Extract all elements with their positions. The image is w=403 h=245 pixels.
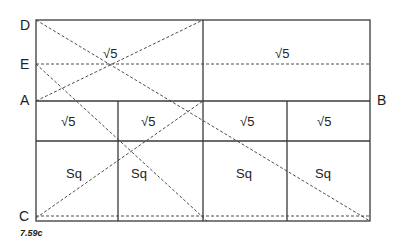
cell-label-row2-3: √5 [240,114,254,129]
cell-label-top-right: √5 [275,46,289,61]
rectangle-construction-diagram: D E A B C √5 √5 √5 √5 √5 √5 Sq Sq Sq Sq … [0,0,403,245]
cell-label-row3-3: Sq [236,166,252,181]
cell-label-row3-2: Sq [131,166,147,181]
cell-label-row2-1: √5 [61,114,75,129]
cell-label-top-left: √5 [103,46,117,61]
point-label-D: D [20,17,30,33]
cell-label-row3-1: Sq [66,166,82,181]
cell-label-row3-4: Sq [315,166,331,181]
diagonal-A-to-top-middle [36,20,203,101]
cell-label-row2-4: √5 [317,114,331,129]
cell-label-row2-2: √5 [141,114,155,129]
point-label-C: C [19,208,29,224]
figure-caption: 7.59c [20,228,43,238]
point-label-E: E [20,56,29,72]
point-label-B: B [377,92,386,108]
diagonal-E-to-bottom-middle [36,64,207,221]
point-label-A: A [20,92,30,108]
